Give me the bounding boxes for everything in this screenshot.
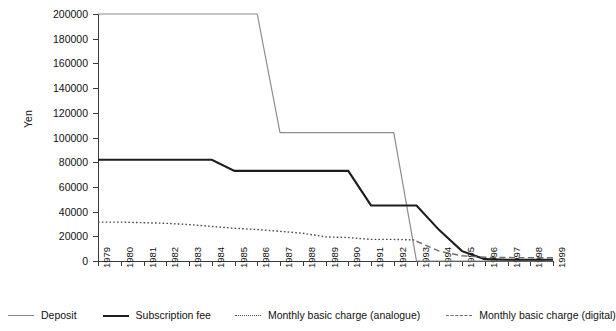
y-tick-label-wrap: 0 — [0, 256, 88, 266]
y-tick-label-wrap: 180000 — [0, 34, 88, 44]
x-tick-mark — [394, 261, 395, 266]
legend-label: Subscription fee — [136, 309, 211, 321]
y-tick-label-wrap: 120000 — [0, 108, 88, 118]
x-tick-label: 1999 — [557, 247, 566, 268]
series-line — [98, 222, 417, 240]
x-tick-mark — [462, 261, 463, 266]
y-tick-label: 40000 — [59, 207, 88, 217]
x-tick-mark — [303, 261, 304, 266]
y-tick-label-wrap: 20000 — [0, 231, 88, 241]
x-tick-mark — [326, 261, 327, 266]
y-tick-label-wrap: 200000 — [0, 9, 88, 19]
series-line — [98, 14, 553, 261]
series-lines — [98, 14, 553, 261]
legend-item[interactable]: Monthly basic charge (analogue) — [235, 309, 420, 321]
x-tick-mark — [280, 261, 281, 266]
x-tick-mark — [371, 261, 372, 266]
y-tick-label: 180000 — [53, 34, 88, 44]
legend-swatch-icon — [103, 310, 129, 320]
legend-item[interactable]: Deposit — [8, 309, 77, 321]
y-tick-label-wrap: 40000 — [0, 207, 88, 217]
chart-legend: DepositSubscription feeMonthly basic cha… — [8, 306, 568, 324]
x-tick-mark — [121, 261, 122, 266]
y-tick-label: 60000 — [59, 182, 88, 192]
x-tick-mark — [508, 261, 509, 266]
legend-item[interactable]: Subscription fee — [103, 309, 211, 321]
x-tick-mark — [485, 261, 486, 266]
x-tick-mark — [235, 261, 236, 266]
legend-swatch-icon — [8, 310, 34, 320]
x-tick-mark — [166, 261, 167, 266]
legend-label: Deposit — [41, 309, 77, 321]
y-tick-label: 20000 — [59, 231, 88, 241]
series-line — [98, 160, 553, 260]
y-tick-label: 120000 — [53, 108, 88, 118]
y-tick-label: 140000 — [53, 83, 88, 93]
y-tick-label-wrap: 160000 — [0, 58, 88, 68]
legend-label: Monthly basic charge (digital) — [479, 309, 616, 321]
x-tick-mark — [417, 261, 418, 266]
legend-item[interactable]: Monthly basic charge (digital) — [446, 309, 616, 321]
y-tick-label-wrap: 140000 — [0, 83, 88, 93]
series-line — [417, 241, 554, 258]
y-tick-label: 160000 — [53, 58, 88, 68]
x-tick-mark — [553, 261, 554, 266]
legend-swatch-icon — [235, 310, 261, 320]
x-tick-mark — [439, 261, 440, 266]
y-tick-label: 200000 — [53, 9, 88, 19]
y-tick-label: 80000 — [59, 157, 88, 167]
y-tick-label-wrap: 60000 — [0, 182, 88, 192]
x-tick-mark — [144, 261, 145, 266]
plot-area — [98, 14, 553, 261]
y-tick-label: 100000 — [53, 133, 88, 143]
x-tick-mark — [530, 261, 531, 266]
x-tick-mark — [98, 261, 99, 266]
x-tick-mark — [212, 261, 213, 266]
legend-label: Monthly basic charge (analogue) — [268, 309, 420, 321]
legend-swatch-icon — [446, 310, 472, 320]
x-tick-mark — [348, 261, 349, 266]
y-tick-label: 0 — [82, 256, 88, 266]
y-tick-label-wrap: 80000 — [0, 157, 88, 167]
y-tick-label-wrap: 100000 — [0, 133, 88, 143]
x-tick-mark — [257, 261, 258, 266]
x-tick-mark — [189, 261, 190, 266]
